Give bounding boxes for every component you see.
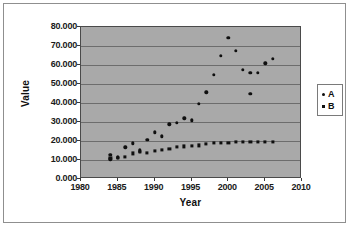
data-point-a: [249, 71, 252, 74]
data-point-a: [205, 91, 208, 94]
x-tick-mark: [80, 178, 81, 181]
legend-label-a: A: [328, 90, 335, 99]
y-tick-label: 30.000: [31, 117, 77, 126]
data-point-a: [182, 117, 185, 120]
data-point-a: [175, 121, 178, 124]
gridline: [81, 141, 300, 142]
x-axis-tick-labels: 1980198519901995200020052010: [80, 182, 301, 196]
legend-marker-circle-icon: [322, 93, 325, 96]
y-tick-label: 10.000: [31, 155, 77, 164]
data-point-b: [124, 155, 127, 158]
y-tick-label: 20.000: [31, 136, 77, 145]
gridline: [81, 65, 300, 66]
legend-label-b: B: [328, 102, 335, 111]
y-tick-label: 60.000: [31, 60, 77, 69]
data-point-b: [256, 140, 259, 143]
data-point-b: [109, 157, 112, 160]
legend-item-b: B: [320, 100, 340, 112]
y-tick-label: 80.000: [31, 22, 77, 31]
x-axis-title: Year: [80, 197, 301, 208]
data-point-b: [153, 149, 156, 152]
y-tick-mark: [77, 140, 80, 141]
y-tick-label: 40.000: [31, 98, 77, 107]
y-tick-mark: [77, 159, 80, 160]
y-tick-mark: [77, 83, 80, 84]
data-point-a: [160, 135, 163, 138]
data-point-a: [219, 54, 222, 57]
gridline: [81, 122, 300, 123]
gridline: [81, 103, 300, 104]
chart-legend: A B: [317, 84, 343, 116]
data-point-b: [264, 140, 267, 143]
data-point-a: [197, 102, 200, 105]
data-point-a: [123, 146, 126, 149]
x-tick-mark: [191, 178, 192, 181]
y-tick-mark: [77, 45, 80, 46]
data-point-b: [183, 145, 186, 148]
data-point-b: [116, 156, 119, 159]
x-tick-mark: [301, 178, 302, 181]
data-point-b: [219, 141, 222, 144]
data-point-a: [153, 131, 156, 134]
legend-marker-square-icon: [322, 105, 325, 108]
data-point-b: [249, 140, 252, 143]
data-point-b: [197, 144, 200, 147]
data-point-b: [241, 140, 244, 143]
y-tick-label: 50.000: [31, 79, 77, 88]
data-point-a: [227, 36, 230, 39]
gridline: [81, 160, 300, 161]
legend-item-a: A: [320, 88, 340, 100]
x-tick-mark: [154, 178, 155, 181]
data-point-b: [212, 142, 215, 145]
x-tick-label: 2010: [278, 182, 324, 192]
gridline: [81, 46, 300, 47]
data-point-a: [249, 92, 252, 95]
data-point-a: [234, 49, 237, 52]
plot-area: [80, 26, 301, 178]
data-point-b: [146, 151, 149, 154]
y-tick-label: 70.000: [31, 41, 77, 50]
y-axis-tick-labels: 0.00010.00020.00030.00040.00050.00060.00…: [25, 26, 77, 178]
chart-frame: Value 0.00010.00020.00030.00040.00050.00…: [3, 3, 346, 223]
x-tick-mark: [264, 178, 265, 181]
data-point-a: [256, 71, 259, 74]
y-tick-mark: [77, 121, 80, 122]
data-point-a: [212, 73, 215, 76]
data-point-b: [175, 146, 178, 149]
data-point-b: [271, 140, 274, 143]
data-point-b: [227, 141, 230, 144]
y-tick-mark: [77, 102, 80, 103]
x-tick-mark: [117, 178, 118, 181]
data-point-b: [138, 150, 141, 153]
gridline: [81, 84, 300, 85]
data-point-a: [271, 57, 274, 60]
data-point-b: [168, 147, 171, 150]
y-tick-mark: [77, 64, 80, 65]
x-tick-mark: [227, 178, 228, 181]
data-point-b: [190, 144, 193, 147]
data-point-a: [241, 68, 244, 71]
data-point-b: [160, 148, 163, 151]
data-point-b: [234, 141, 237, 144]
data-point-a: [131, 142, 134, 145]
y-tick-mark: [77, 26, 80, 27]
data-point-b: [131, 152, 134, 155]
data-point-a: [168, 123, 171, 126]
data-point-b: [205, 142, 208, 145]
